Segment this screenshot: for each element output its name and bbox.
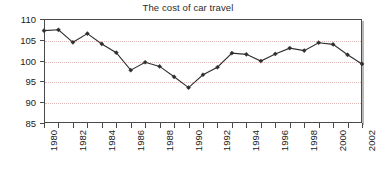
y-axis-label: 85 — [0, 118, 36, 129]
x-axis-label: 1990 — [193, 130, 204, 151]
x-axis-tick — [275, 123, 276, 128]
x-axis-tick — [145, 123, 146, 128]
x-axis-tick — [131, 123, 132, 128]
x-axis-tick — [261, 123, 262, 128]
x-axis-tick — [333, 123, 334, 128]
x-axis-label: 1986 — [135, 130, 146, 151]
x-axis-label: 1998 — [308, 130, 319, 151]
data-point-marker — [302, 49, 306, 53]
x-axis-tick — [102, 123, 103, 128]
x-axis-tick — [232, 123, 233, 128]
x-axis-label: 1992 — [221, 130, 232, 151]
y-axis-label: 100 — [0, 55, 36, 66]
x-axis-tick — [246, 123, 247, 128]
y-axis-label: 105 — [0, 34, 36, 45]
x-axis-tick — [116, 123, 117, 128]
x-axis-label: 1982 — [77, 130, 88, 151]
y-axis-label: 95 — [0, 76, 36, 87]
x-axis-tick — [217, 123, 218, 128]
data-point-marker — [317, 41, 321, 45]
x-axis-tick — [290, 123, 291, 128]
data-point-marker — [244, 52, 248, 56]
x-axis-label: 1988 — [164, 130, 175, 151]
series-markers — [42, 28, 364, 90]
x-axis-tick — [362, 123, 363, 128]
x-axis-tick — [203, 123, 204, 128]
x-axis-label: 1984 — [106, 130, 117, 151]
x-axis-tick — [73, 123, 74, 128]
chart-container: The cost of car travel 859095100105110 1… — [0, 0, 376, 169]
data-point-marker — [42, 29, 46, 33]
x-axis-label: 2002 — [366, 130, 376, 151]
x-axis-tick — [348, 123, 349, 128]
x-axis-tick — [319, 123, 320, 128]
x-axis-label: 2000 — [337, 130, 348, 151]
y-axis-label: 110 — [0, 14, 36, 25]
data-point-marker — [259, 59, 263, 63]
x-axis-tick — [174, 123, 175, 128]
x-axis-tick — [44, 123, 45, 128]
x-axis-label: 1994 — [250, 130, 261, 151]
x-axis-tick — [304, 123, 305, 128]
data-series-cost-index — [44, 19, 362, 123]
data-point-marker — [273, 52, 277, 56]
x-axis-label: 1980 — [48, 130, 59, 151]
plot-right-shadow — [362, 21, 364, 125]
series-line — [44, 30, 362, 88]
x-axis-tick — [58, 123, 59, 128]
data-point-marker — [288, 46, 292, 50]
x-axis-label: 1996 — [279, 130, 290, 151]
y-axis-label: 90 — [0, 97, 36, 108]
data-point-marker — [143, 60, 147, 64]
x-axis-tick — [160, 123, 161, 128]
x-axis-tick — [189, 123, 190, 128]
chart-title: The cost of car travel — [0, 2, 376, 13]
x-axis-tick — [87, 123, 88, 128]
